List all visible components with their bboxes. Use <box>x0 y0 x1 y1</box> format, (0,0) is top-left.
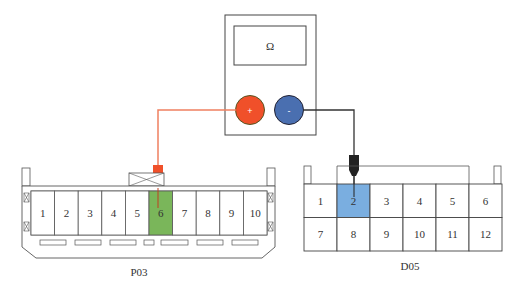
p03-pin-label: 1 <box>40 207 46 219</box>
d05-pin-label: 6 <box>483 195 489 207</box>
p03-pin-label: 2 <box>64 207 70 219</box>
d05-pin-label: 9 <box>384 228 390 240</box>
p03-pin-label: 9 <box>229 207 235 219</box>
minus-icon: - <box>288 106 291 116</box>
p03-pin-label: 8 <box>205 207 211 219</box>
p03-pin-label: 10 <box>250 207 262 219</box>
d05-pin-label: 12 <box>480 228 491 240</box>
negative-probe-icon <box>349 155 359 176</box>
latch-icon <box>129 173 164 186</box>
d05-pin-label: 10 <box>414 228 426 240</box>
multimeter: Ω + - <box>225 15 316 135</box>
d05-label: D05 <box>401 260 420 272</box>
d05-pin-label: 1 <box>318 195 324 207</box>
plus-icon: + <box>247 106 252 116</box>
p03-pin-label: 3 <box>87 207 93 219</box>
p03-label: P03 <box>130 266 148 278</box>
p03-pin-row: 12345678910 <box>31 191 267 235</box>
p03-pin-label: 7 <box>182 207 188 219</box>
p03-pin-label: 4 <box>111 207 117 219</box>
d05-pin-label: 4 <box>417 195 423 207</box>
ohm-symbol: Ω <box>266 40 274 52</box>
d05-pin-label: 8 <box>351 228 357 240</box>
d05-pin-label: 7 <box>318 228 324 240</box>
connector-p03: 12345678910 P03 <box>22 168 275 278</box>
diagram-canvas: Ω + - 1 <box>0 0 517 290</box>
connector-d05: 123456789101112 D05 <box>304 166 502 272</box>
d05-pin-label: 5 <box>450 195 456 207</box>
p03-pin-label: 5 <box>134 207 140 219</box>
p03-pin-label: 6 <box>158 207 164 219</box>
d05-pin-label: 11 <box>447 228 458 240</box>
d05-pin-label: 3 <box>384 195 390 207</box>
d05-pin-grid: 123456789101112 <box>304 184 502 251</box>
